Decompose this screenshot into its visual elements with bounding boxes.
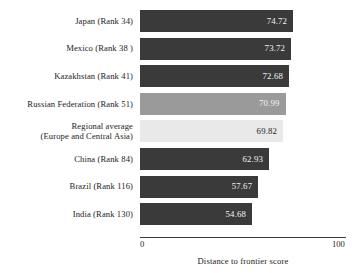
bar-track: 69.82: [140, 120, 345, 142]
bar-value-label: 62.93: [242, 155, 263, 164]
bar[interactable]: 74.72: [140, 10, 293, 32]
bar-value-label: 57.67: [232, 182, 253, 191]
category-label: Mexico (Rank 38 ): [0, 36, 140, 62]
bar-value-label: 70.99: [259, 99, 280, 108]
bar-value-label: 74.72: [267, 17, 288, 26]
category-label-line: Kazakhstan (Rank 41): [54, 71, 133, 82]
bar-track: 70.99: [140, 93, 345, 115]
bar[interactable]: 62.93: [140, 148, 269, 170]
bar-value-label: 54.68: [226, 210, 247, 219]
bar-value-label: 72.68: [262, 72, 283, 81]
category-label: Russian Federation (Rank 51): [0, 91, 140, 117]
bar-track: 54.68: [140, 203, 345, 225]
bar-track: 72.68: [140, 65, 345, 87]
category-label-line: Japan (Rank 34): [75, 16, 133, 27]
bar-track: 74.72: [140, 10, 345, 32]
x-axis-line: [140, 237, 346, 238]
category-label-line: Brazil (Rank 116): [70, 181, 133, 192]
x-axis-tick-100: 100: [332, 240, 345, 249]
x-axis-tick-0: 0: [140, 240, 144, 249]
bar-row: Russian Federation (Rank 51)70.99: [0, 91, 361, 117]
bar-row: Kazakhstan (Rank 41)72.68: [0, 63, 361, 89]
bar-track: 62.93: [140, 148, 345, 170]
category-label-line: Regional average: [72, 121, 134, 132]
category-label-line: (Europe and Central Asia): [41, 131, 133, 142]
category-label: China (Rank 84): [0, 146, 140, 172]
bar-chart: 0 100 Distance to frontier score Japan (…: [0, 0, 361, 273]
bar[interactable]: 72.68: [140, 65, 289, 87]
bar-value-label: 73.72: [265, 44, 286, 53]
category-label-line: Russian Federation (Rank 51): [27, 99, 133, 110]
category-label-line: India (Rank 130): [73, 209, 133, 220]
bar[interactable]: 73.72: [140, 38, 291, 60]
bar[interactable]: 57.67: [140, 176, 258, 198]
category-label: Brazil (Rank 116): [0, 174, 140, 200]
category-label: Regional average(Europe and Central Asia…: [0, 118, 140, 144]
bar-track: 57.67: [140, 176, 345, 198]
category-label: India (Rank 130): [0, 201, 140, 227]
bar[interactable]: 69.82: [140, 120, 283, 142]
x-axis-title: Distance to frontier score: [140, 257, 346, 266]
bar-track: 73.72: [140, 38, 345, 60]
bar-value-label: 69.82: [257, 127, 278, 136]
bar[interactable]: 70.99: [140, 93, 286, 115]
bar[interactable]: 54.68: [140, 203, 252, 225]
category-label: Japan (Rank 34): [0, 8, 140, 34]
category-label-line: Mexico (Rank 38 ): [66, 43, 133, 54]
bar-row: Japan (Rank 34)74.72: [0, 8, 361, 34]
bar-row: Regional average(Europe and Central Asia…: [0, 118, 361, 144]
category-label: Kazakhstan (Rank 41): [0, 63, 140, 89]
bar-row: Brazil (Rank 116)57.67: [0, 174, 361, 200]
bar-row: China (Rank 84)62.93: [0, 146, 361, 172]
bar-row: India (Rank 130)54.68: [0, 201, 361, 227]
bar-row: Mexico (Rank 38 )73.72: [0, 36, 361, 62]
category-label-line: China (Rank 84): [74, 154, 133, 165]
